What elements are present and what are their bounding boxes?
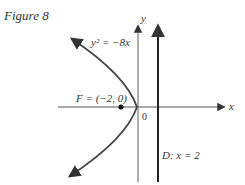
x-axis-label: x bbox=[228, 100, 234, 112]
diagram-canvas: y x y² = −8x F = (−2, 0) 0 D: x = 2 bbox=[0, 0, 245, 185]
figure-caption: Figure 8 bbox=[4, 8, 49, 24]
y-axis-label: y bbox=[140, 12, 146, 24]
directrix-label: D: x = 2 bbox=[161, 149, 200, 161]
parabola-figure: Figure 8 y x y² = −8x F = (−2, 0) 0 D: x… bbox=[0, 0, 245, 185]
origin-label: 0 bbox=[142, 111, 147, 122]
equation-label: y² = −8x bbox=[90, 36, 130, 48]
focus-label: F = (−2, 0) bbox=[75, 92, 127, 105]
focus-point bbox=[118, 104, 123, 109]
